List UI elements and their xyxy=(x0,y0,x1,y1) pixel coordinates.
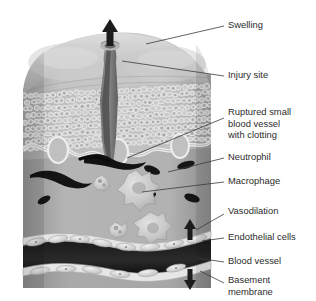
dome-highlight-left xyxy=(38,47,98,69)
epidermal-cell-nucleus xyxy=(135,135,137,137)
epidermal-cell-nucleus xyxy=(61,113,63,115)
epidermal-cell xyxy=(185,105,190,110)
epidermal-cell xyxy=(157,105,162,111)
epidermal-cell-nucleus xyxy=(186,92,188,94)
epidermal-cell-nucleus xyxy=(146,122,148,124)
epidermal-cell-nucleus xyxy=(130,109,132,111)
label-vasodilation: Vasodilation xyxy=(228,205,278,216)
epidermal-cell xyxy=(82,124,87,129)
epidermal-cell xyxy=(210,136,216,140)
epidermal-cell xyxy=(119,114,124,119)
epidermal-cell-nucleus xyxy=(59,94,61,96)
epidermal-cell xyxy=(92,110,98,114)
label-basement-membrane: Basementmembrane xyxy=(228,274,273,297)
epidermal-cell-nucleus xyxy=(129,135,131,137)
epidermal-cell-nucleus xyxy=(175,107,177,109)
epidermal-cell-nucleus xyxy=(127,142,129,144)
epidermal-cell-nucleus xyxy=(212,98,214,100)
epidermal-cell-nucleus xyxy=(158,133,160,135)
epidermal-cell xyxy=(67,91,72,95)
epidermal-cell xyxy=(124,115,130,120)
epidermal-cell xyxy=(76,97,82,102)
epidermal-cell-nucleus xyxy=(56,114,58,116)
epidermal-cell xyxy=(182,85,188,90)
epidermal-cell-nucleus xyxy=(161,140,163,142)
epidermal-cell xyxy=(152,139,158,144)
label-injury-site: Injury site xyxy=(228,69,268,80)
epidermal-cell-nucleus xyxy=(146,108,148,110)
epidermal-cell xyxy=(91,116,97,120)
epidermal-cell-nucleus xyxy=(152,94,154,96)
epidermal-cell-nucleus xyxy=(47,119,49,121)
label-endothelial-cells-line: Endothelial cells xyxy=(228,231,296,242)
epidermal-cell-nucleus xyxy=(134,122,136,124)
label-endothelial-cells: Endothelial cells xyxy=(228,231,296,242)
epidermal-cell xyxy=(142,139,148,144)
tissue-block xyxy=(22,19,220,290)
epidermal-cell-nucleus xyxy=(174,94,176,96)
epidermal-cell-nucleus xyxy=(82,131,84,133)
epidermal-cell xyxy=(96,143,102,147)
epidermal-cell-nucleus xyxy=(212,137,214,139)
epidermal-cell-nucleus xyxy=(184,126,186,128)
epidermal-cell-nucleus xyxy=(163,108,165,110)
epidermal-cell-nucleus xyxy=(214,105,216,107)
epidermal-cell-nucleus xyxy=(152,121,154,123)
epidermal-cell xyxy=(119,89,125,94)
epidermal-cell xyxy=(93,135,99,140)
epidermal-cell-nucleus xyxy=(146,95,148,97)
epidermal-cell xyxy=(93,123,99,128)
epidermal-cell-nucleus xyxy=(134,96,136,98)
epidermal-cell xyxy=(66,99,71,103)
epidermal-cell-nucleus xyxy=(63,92,65,94)
epidermal-cell-nucleus xyxy=(46,94,48,96)
epidermal-cell-nucleus xyxy=(52,94,54,96)
epidermal-cell-nucleus xyxy=(86,144,88,146)
label-blood-vessel: Blood vessel xyxy=(228,255,281,266)
epidermal-cell-nucleus xyxy=(167,87,169,89)
epidermal-cell xyxy=(212,103,218,108)
epidermal-cell xyxy=(211,84,216,88)
epidermal-cell xyxy=(83,110,88,115)
epidermal-cell-nucleus xyxy=(149,115,151,117)
epidermal-cell-nucleus xyxy=(87,118,89,120)
epidermal-cell xyxy=(76,110,81,115)
epidermal-cell-nucleus xyxy=(84,98,86,100)
label-neutrophil: Neutrophil xyxy=(228,151,271,162)
epidermal-cell xyxy=(150,106,156,111)
epidermal-cell-nucleus xyxy=(193,106,195,108)
epidermal-cell xyxy=(90,90,95,95)
epidermal-cell-nucleus xyxy=(56,100,58,102)
epidermal-cell xyxy=(71,124,76,128)
epidermal-cell xyxy=(136,114,142,119)
epidermal-cell-nucleus xyxy=(157,121,159,123)
block-right-shade xyxy=(196,44,211,288)
epidermal-cell xyxy=(167,132,173,137)
epidermal-cell-nucleus xyxy=(172,87,174,89)
epidermal-cell xyxy=(48,113,54,117)
epidermal-cell-nucleus xyxy=(215,131,217,133)
epidermal-cell xyxy=(184,118,190,123)
epidermal-cell xyxy=(57,118,63,122)
label-group: SwellingInjury siteRuptured smallblood v… xyxy=(227,19,296,297)
epidermal-cell-nucleus xyxy=(69,132,71,134)
epidermal-cell-nucleus xyxy=(70,145,72,147)
epidermal-cell-nucleus xyxy=(72,99,74,101)
epidermal-cell-nucleus xyxy=(213,85,215,87)
epidermal-cell xyxy=(154,87,159,92)
epidermal-cell-nucleus xyxy=(87,105,89,107)
epidermal-cell-nucleus xyxy=(150,128,152,130)
epidermal-cell-nucleus xyxy=(214,118,216,120)
epidermal-cell-nucleus xyxy=(75,105,77,107)
epidermal-cell-nucleus xyxy=(143,128,145,130)
epidermal-cell-nucleus xyxy=(65,133,67,135)
epidermal-cell-nucleus xyxy=(129,122,131,124)
epidermal-cell xyxy=(45,132,51,136)
epidermal-cell xyxy=(67,118,72,123)
epidermal-cell-nucleus xyxy=(175,120,177,122)
epidermal-cell-nucleus xyxy=(53,120,55,122)
epidermal-cell xyxy=(85,91,90,96)
inflammation-diagram: SwellingInjury siteRuptured smallblood v… xyxy=(0,0,316,301)
label-basement-membrane-line: Basement xyxy=(228,274,271,285)
block-left-shade xyxy=(23,52,44,288)
